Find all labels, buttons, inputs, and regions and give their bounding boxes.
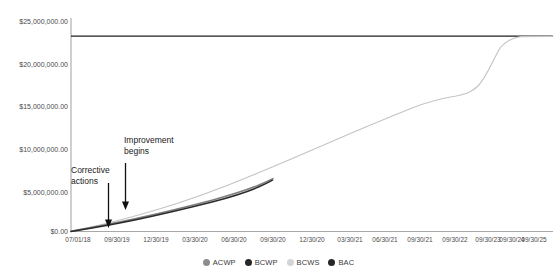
x-tick-label-11: 09/30/23	[475, 236, 500, 244]
x-tick-label-0: 07/01/18	[65, 236, 90, 244]
annotation-arrow-corrective-actions	[105, 183, 112, 228]
legend-item-bcws[interactable]: BCWS	[287, 258, 320, 267]
x-tick-label-6: 12/30/20	[299, 236, 324, 244]
x-tick-label-5: 09/30/20	[260, 236, 285, 244]
legend-marker-bac-icon	[328, 259, 335, 266]
x-tick-label-10: 09/30/22	[442, 236, 467, 244]
legend-item-bac[interactable]: BAC	[328, 258, 354, 267]
annotation-label-improvement-begins: Improvement begins	[124, 135, 174, 157]
annotation-corrective-line2: actions	[71, 176, 110, 187]
x-tick-label-1: 09/30/19	[104, 236, 129, 244]
x-tick-label-9: 09/30/21	[407, 236, 432, 244]
legend-label-acwp: ACWP	[213, 258, 236, 267]
y-tick-label-15m: $15,000,000.00	[4, 103, 68, 111]
x-tick-label-2: 12/30/19	[143, 236, 168, 244]
annotation-corrective-line1: Corrective	[71, 165, 110, 176]
x-tick-label-4: 06/30/20	[221, 236, 246, 244]
y-tick-label-0: $0.00	[4, 228, 68, 236]
x-tick-label-13: 09/30/25	[521, 236, 546, 244]
legend-marker-acwp-icon	[203, 259, 210, 266]
legend-label-bcwp: BCWP	[255, 258, 278, 267]
legend-marker-bcwp-icon	[245, 259, 252, 266]
legend-label-bac: BAC	[338, 258, 354, 267]
annotation-improvement-line1: Improvement	[124, 135, 174, 146]
annotation-improvement-line2: begins	[124, 146, 174, 157]
x-tick-label-7: 03/30/21	[337, 236, 362, 244]
annotation-arrow-improvement-begins	[122, 163, 129, 210]
series-line-bcws	[71, 36, 553, 231]
series-line-bcwp	[71, 180, 273, 231]
y-axis-tick-labels: $25,000,000.00 $20,000,000.00 $15,000,00…	[0, 0, 68, 279]
annotation-label-corrective-actions: Corrective actions	[71, 165, 110, 187]
y-tick-label-20m: $20,000,000.00	[4, 61, 68, 69]
legend-label-bcws: BCWS	[297, 258, 320, 267]
chart-legend: ACWP BCWP BCWS BAC	[0, 258, 557, 267]
legend-marker-bcws-icon	[287, 259, 294, 266]
evm-s-curve-chart: $25,000,000.00 $20,000,000.00 $15,000,00…	[0, 0, 557, 279]
y-tick-label-10m: $10,000,000.00	[4, 146, 68, 154]
x-tick-label-8: 06/30/21	[372, 236, 397, 244]
legend-item-bcwp[interactable]: BCWP	[245, 258, 278, 267]
y-tick-label-5m: $5,000,000.00	[4, 189, 68, 197]
legend-item-acwp[interactable]: ACWP	[203, 258, 236, 267]
x-tick-label-3: 03/30/20	[182, 236, 207, 244]
y-tick-label-25m: $25,000,000.00	[4, 18, 68, 26]
